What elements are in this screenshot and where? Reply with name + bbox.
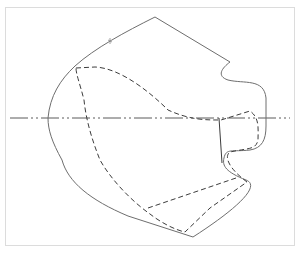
inner-outline bbox=[76, 67, 258, 232]
outer-outline bbox=[48, 17, 266, 237]
pattern-drawing bbox=[0, 0, 304, 254]
cuff-seam bbox=[219, 118, 222, 163]
lower-dashed-line bbox=[148, 178, 236, 208]
diagram-canvas: Sleeve pattern drawing bbox=[0, 0, 304, 254]
